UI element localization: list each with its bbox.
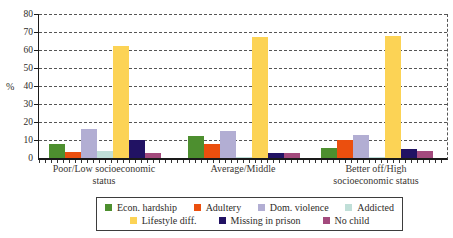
legend-swatch-icon-addicted <box>345 204 352 211</box>
legend-swatch-icon-dom-violence <box>258 204 265 211</box>
y-tick-label-50: 50 <box>0 63 33 73</box>
bar-econ-hardship <box>49 144 65 158</box>
bar-addicted <box>236 157 252 158</box>
legend-item-dom-violence: Dom. violence <box>258 202 329 213</box>
legend-label-econ-hardship: Econ. hardship <box>117 202 177 213</box>
bar-no-child <box>417 151 433 158</box>
legend-swatch-icon-lifestyle-diff <box>130 217 137 224</box>
bar-adultery <box>337 140 353 158</box>
bar-group-poor-low-socioeconomic-status <box>49 14 161 158</box>
y-tick-label-10: 10 <box>0 135 33 145</box>
bar-group-average-middle <box>188 14 300 158</box>
y-tick-mark-60 <box>34 50 38 51</box>
bar-missing-in-prison <box>129 140 145 158</box>
legend-label-lifestyle-diff: Lifestyle diff. <box>142 215 197 226</box>
bar-missing-in-prison <box>268 153 284 158</box>
legend-item-no-child: No child <box>323 215 370 226</box>
plot-area <box>38 14 448 160</box>
category-label-average-middle: Average/Middle <box>211 163 276 175</box>
legend-row-2: Lifestyle diff.Missing in prisonNo child <box>105 215 394 226</box>
legend-item-lifestyle-diff: Lifestyle diff. <box>130 215 197 226</box>
bar-group-better-off-high-socioeconomic-status <box>321 14 433 158</box>
y-tick-mark-50 <box>34 68 38 69</box>
legend-item-addicted: Addicted <box>345 202 394 213</box>
bar-econ-hardship <box>188 136 204 158</box>
category-label-better-off-high: Better off/High socioeconomic status <box>324 163 428 186</box>
y-tick-label-80: 80 <box>0 9 33 19</box>
bar-econ-hardship <box>321 148 337 158</box>
legend-item-missing-in-prison: Missing in prison <box>219 215 301 226</box>
y-tick-mark-20 <box>34 122 38 123</box>
y-tick-mark-80 <box>34 14 38 15</box>
legend-label-missing-in-prison: Missing in prison <box>231 215 301 226</box>
y-tick-label-30: 30 <box>0 99 33 109</box>
y-tick-label-40: 40 <box>0 81 33 91</box>
bar-missing-in-prison <box>401 149 417 158</box>
bar-lifestyle-diff <box>113 46 129 158</box>
y-tick-label-60: 60 <box>0 45 33 55</box>
y-tick-label-20: 20 <box>0 117 33 127</box>
legend-label-dom-violence: Dom. violence <box>270 202 329 213</box>
legend-swatch-icon-adultery <box>194 204 201 211</box>
bar-no-child <box>284 153 300 158</box>
y-tick-label-0: 0 <box>0 153 33 163</box>
legend-swatch-icon-no-child <box>323 217 330 224</box>
bar-dom-violence <box>81 129 97 158</box>
legend-item-adultery: Adultery <box>194 202 242 213</box>
bar-lifestyle-diff <box>385 36 401 158</box>
category-label-poor-low: Poor/Low socioeconomic status <box>45 163 163 186</box>
legend-box: Econ. hardshipAdulteryDom. violenceAddic… <box>96 197 403 231</box>
y-axis: 01020304050607080 <box>0 14 33 158</box>
bar-adultery <box>65 152 81 158</box>
legend-label-adultery: Adultery <box>206 202 242 213</box>
y-tick-label-70: 70 <box>0 27 33 37</box>
legend-swatch-icon-missing-in-prison <box>219 217 226 224</box>
bar-lifestyle-diff <box>252 37 268 158</box>
y-tick-mark-70 <box>34 32 38 33</box>
bar-addicted <box>369 157 385 158</box>
legend-swatch-icon-econ-hardship <box>105 204 112 211</box>
bar-addicted <box>97 151 113 158</box>
legend-row-1: Econ. hardshipAdulteryDom. violenceAddic… <box>105 202 394 213</box>
bar-dom-violence <box>353 135 369 158</box>
legend-item-econ-hardship: Econ. hardship <box>105 202 177 213</box>
y-tick-mark-10 <box>34 140 38 141</box>
bar-adultery <box>204 144 220 158</box>
bar-no-child <box>145 153 161 158</box>
y-tick-mark-40 <box>34 86 38 87</box>
legend-label-no-child: No child <box>335 215 370 226</box>
bar-dom-violence <box>220 131 236 158</box>
bar-chart-figure: { "chart_data": { "type": "bar", "title"… <box>0 0 453 238</box>
legend-label-addicted: Addicted <box>357 202 394 213</box>
y-tick-mark-30 <box>34 104 38 105</box>
